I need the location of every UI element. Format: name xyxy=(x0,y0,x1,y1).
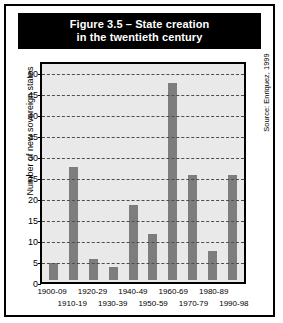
x-axis-tick-label: 1950-59 xyxy=(138,299,167,308)
y-axis-tick-mark xyxy=(38,284,41,285)
x-axis-tick-label: 1970-79 xyxy=(179,299,208,308)
bar-slot xyxy=(202,66,222,280)
gridline xyxy=(42,263,244,264)
x-axis-tick-label: 1930-39 xyxy=(98,299,127,308)
y-axis-tick-mark xyxy=(38,74,41,75)
source-annotation: Source: Enriquez, 1999 xyxy=(262,33,271,153)
y-axis-tick-mark xyxy=(38,200,41,201)
bar[interactable] xyxy=(208,251,217,280)
bar-slot xyxy=(163,66,183,280)
figure-frame: Figure 3.5 – State creation in the twent… xyxy=(4,4,275,317)
y-axis-tick-label: 20 xyxy=(28,195,38,205)
y-axis-tick-label: 15 xyxy=(28,216,38,226)
y-axis-tick-label: 40 xyxy=(28,111,38,121)
gridline xyxy=(42,242,244,243)
bar-slot xyxy=(143,66,163,280)
figure-title-banner: Figure 3.5 – State creation in the twent… xyxy=(18,13,261,49)
y-axis-tick-label: 10 xyxy=(28,237,38,247)
y-axis-tick-label: 35 xyxy=(28,132,38,142)
y-axis-tick-mark xyxy=(38,179,41,180)
bar[interactable] xyxy=(148,234,157,280)
bar-slot xyxy=(44,66,64,280)
y-axis-title: Number of new sovereign states xyxy=(25,41,35,221)
bar[interactable] xyxy=(109,267,118,280)
gridline xyxy=(42,137,244,138)
y-axis-tick-mark xyxy=(38,116,41,117)
bar-slot xyxy=(123,66,143,280)
bar[interactable] xyxy=(49,263,58,280)
bar-slot xyxy=(222,66,242,280)
gridline xyxy=(42,74,244,75)
bar-slot xyxy=(64,66,84,280)
plot-area: 05101520253035404550 xyxy=(40,62,246,284)
gridline xyxy=(42,95,244,96)
gridline xyxy=(42,200,244,201)
x-axis-tick-label: 1940-49 xyxy=(118,287,147,296)
y-axis-tick-mark xyxy=(38,137,41,138)
figure-title-line-2: in the twentieth century xyxy=(77,31,203,44)
bar[interactable] xyxy=(228,175,237,280)
y-axis-tick-label: 50 xyxy=(28,69,38,79)
bar-slot xyxy=(103,66,123,280)
figure-title-line-1: Figure 3.5 – State creation xyxy=(70,18,210,31)
y-axis-tick-label: 5 xyxy=(33,258,38,268)
x-axis-tick-label: 1900-09 xyxy=(37,287,66,296)
x-axis-tick-label: 1990-98 xyxy=(219,299,248,308)
gridline xyxy=(42,158,244,159)
bar[interactable] xyxy=(188,175,197,280)
x-axis-tick-label: 1980-89 xyxy=(199,287,228,296)
bars-layer xyxy=(44,66,242,280)
bar-slot xyxy=(84,66,104,280)
y-axis-tick-mark xyxy=(38,263,41,264)
y-axis-tick-mark xyxy=(38,221,41,222)
y-axis-tick-label: 25 xyxy=(28,174,38,184)
y-axis-tick-mark xyxy=(38,95,41,96)
y-axis-tick-mark xyxy=(38,158,41,159)
gridline xyxy=(42,116,244,117)
y-axis-tick-mark xyxy=(38,242,41,243)
plot-wrapper: 05101520253035404550 xyxy=(40,62,246,284)
gridline xyxy=(42,179,244,180)
gridline xyxy=(42,221,244,222)
x-axis-tick-label: 1960-69 xyxy=(159,287,188,296)
x-axis-tick-label: 1910-19 xyxy=(58,299,87,308)
bar-slot xyxy=(183,66,203,280)
y-axis-tick-label: 30 xyxy=(28,153,38,163)
y-axis-tick-label: 45 xyxy=(28,90,38,100)
x-axis-labels: 1900-091910-191920-291930-391940-491950-… xyxy=(40,286,246,318)
x-axis-tick-label: 1920-29 xyxy=(78,287,107,296)
bar[interactable] xyxy=(168,83,177,280)
